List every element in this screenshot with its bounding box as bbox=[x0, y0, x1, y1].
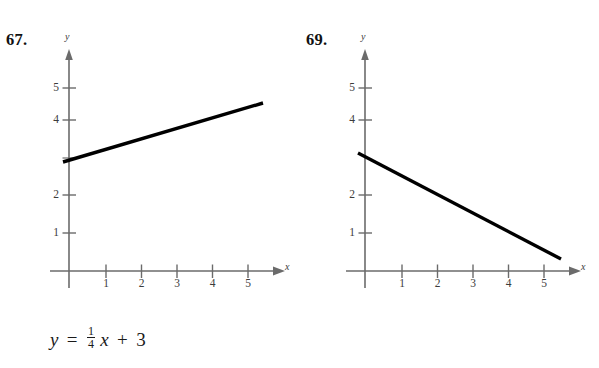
x-tick-label-2: 2 bbox=[135, 277, 149, 289]
x-axis-label: x bbox=[285, 261, 289, 272]
problem-67: 67. y x 5 4 2 1 bbox=[0, 0, 299, 368]
equation-plus: + bbox=[114, 329, 131, 350]
x-tick-label-4: 4 bbox=[502, 277, 516, 289]
equation-fraction: 1 4 bbox=[87, 325, 95, 350]
y-axis-arrowhead bbox=[65, 49, 73, 60]
equation-equals: = bbox=[64, 329, 81, 350]
x-tick-label-1: 1 bbox=[395, 277, 409, 289]
x-tick-label-5: 5 bbox=[537, 277, 551, 289]
problem-69: 69. y x 5 4 2 1 1 bbox=[296, 0, 595, 368]
graph-67: y x 5 4 2 1 1 2 3 4 5 bbox=[0, 0, 299, 300]
graph-69-svg bbox=[296, 0, 595, 300]
graph-67-svg bbox=[0, 0, 299, 300]
y-axis-label: y bbox=[65, 31, 69, 42]
graph-69: y x 5 4 2 1 1 2 3 4 5 bbox=[296, 0, 595, 300]
equation-variable: x bbox=[100, 329, 109, 350]
y-axis-arrowhead bbox=[361, 49, 369, 60]
plot-line-67 bbox=[63, 103, 263, 162]
x-tick-label-5: 5 bbox=[241, 277, 255, 289]
y-tick-label-4: 4 bbox=[341, 113, 355, 125]
y-tick-label-1: 1 bbox=[45, 226, 59, 238]
fraction-numerator: 1 bbox=[87, 325, 95, 337]
y-tick-label-4: 4 bbox=[45, 113, 59, 125]
x-axis-arrowhead bbox=[273, 267, 285, 276]
x-tick-label-3: 3 bbox=[466, 277, 480, 289]
y-tick-label-1: 1 bbox=[341, 226, 355, 238]
equation-constant: 3 bbox=[136, 329, 146, 350]
y-tick-label-5: 5 bbox=[45, 81, 59, 93]
x-tick-label-4: 4 bbox=[206, 277, 220, 289]
fraction-denominator: 4 bbox=[87, 337, 95, 350]
x-axis-label: x bbox=[581, 261, 585, 272]
x-tick-label-1: 1 bbox=[99, 277, 113, 289]
equation-lhs: y bbox=[50, 329, 59, 350]
y-tick-label-2: 2 bbox=[45, 188, 59, 200]
equation-67: y = 1 4 x + 3 bbox=[50, 327, 146, 352]
y-tick-label-5: 5 bbox=[341, 81, 355, 93]
x-tick-label-2: 2 bbox=[431, 277, 445, 289]
y-axis-label: y bbox=[361, 31, 365, 42]
x-tick-label-3: 3 bbox=[170, 277, 184, 289]
x-axis-arrowhead bbox=[569, 267, 581, 276]
y-tick-label-2: 2 bbox=[341, 188, 355, 200]
plot-line-69 bbox=[358, 153, 561, 259]
